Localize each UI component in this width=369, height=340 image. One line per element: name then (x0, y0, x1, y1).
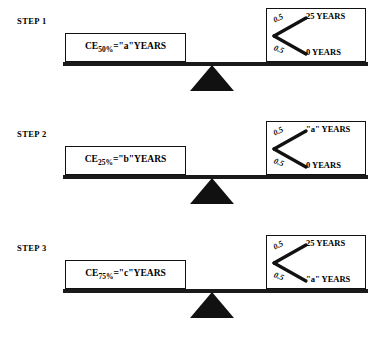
outcome-label-top: 25 YEARS (306, 239, 345, 248)
certainty-equivalent-text: CE25%="b"YEARS (85, 155, 167, 166)
ce-subscript: 25% (98, 158, 113, 167)
ce-prefix: CE (85, 268, 98, 278)
ce-equals: ="a"YEARS (113, 41, 166, 51)
step-panel-3: STEP 3 CE75%="c"YEARS 0.5 0.5 25 YEARS "… (0, 227, 369, 340)
step-panel-1: STEP 1 CE50%="a"YEARS 0.5 0.5 25 YEARS 0… (0, 0, 369, 113)
outcome-label-bottom: 0 YEARS (306, 48, 341, 57)
certainty-equivalent-text: CE75%="c"YEARS (85, 269, 166, 280)
ce-equals: ="c"YEARS (113, 268, 165, 278)
ce-subscript: 50% (98, 45, 113, 54)
certainty-equivalent-text: CE50%="a"YEARS (85, 42, 166, 53)
fulcrum-triangle (190, 178, 234, 204)
outcome-label-bottom: "a" YEARS (306, 275, 350, 284)
outcome-label-top: "a" YEARS (306, 125, 350, 134)
fulcrum-triangle (190, 65, 234, 91)
ce-prefix: CE (85, 41, 98, 51)
step-label: STEP 3 (17, 243, 47, 253)
step-label: STEP 2 (17, 129, 47, 139)
ce-equals: ="b"YEARS (113, 154, 166, 164)
step-panel-2: STEP 2 CE25%="b"YEARS 0.5 0.5 "a" YEARS … (0, 113, 369, 226)
ce-prefix: CE (85, 154, 98, 164)
outcome-label-bottom: 0 YEARS (306, 161, 341, 170)
certainty-equivalent-box: CE25%="b"YEARS (65, 146, 186, 175)
fulcrum-triangle (190, 292, 234, 318)
outcome-label-top: 25 YEARS (306, 12, 345, 21)
certainty-equivalent-box: CE75%="c"YEARS (65, 260, 186, 289)
ce-subscript: 75% (98, 272, 113, 281)
step-label: STEP 1 (17, 16, 47, 26)
certainty-equivalent-box: CE50%="a"YEARS (65, 33, 186, 62)
